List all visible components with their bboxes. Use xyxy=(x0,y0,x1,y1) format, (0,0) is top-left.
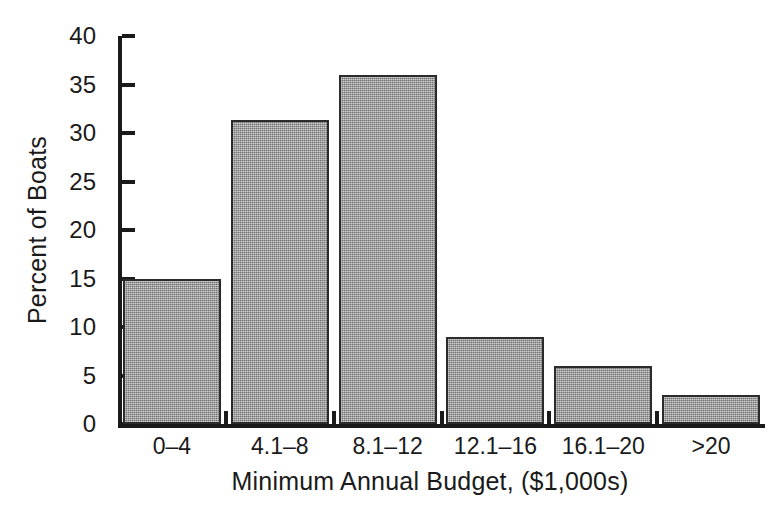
x-tick-label: 12.1–16 xyxy=(442,432,550,460)
x-tick-label: >20 xyxy=(657,432,765,460)
bar xyxy=(446,337,544,424)
y-tick-label: 5 xyxy=(50,364,96,388)
x-axis-ticks xyxy=(118,424,765,425)
bar-chart-figure: Percent of Boats 0510152025303540 0–44.1… xyxy=(0,0,775,513)
y-axis-tick-labels: 0510152025303540 xyxy=(48,0,96,513)
x-tick-label: 8.1–12 xyxy=(334,432,442,460)
y-tick-label: 25 xyxy=(50,170,96,194)
plot-area xyxy=(118,36,765,424)
bar xyxy=(554,366,652,424)
bar xyxy=(123,279,221,425)
y-tick-label: 15 xyxy=(50,267,96,291)
y-tick-label: 40 xyxy=(50,24,96,48)
x-tick-label: 0–4 xyxy=(118,432,226,460)
bar xyxy=(662,395,760,424)
bars-layer xyxy=(118,36,765,424)
y-tick-label: 10 xyxy=(50,315,96,339)
y-tick-label: 30 xyxy=(50,121,96,145)
x-axis-title: Minimum Annual Budget, ($1,000s) xyxy=(100,466,760,496)
x-tick-label: 16.1–20 xyxy=(549,432,657,460)
x-axis-tick-labels: 0–44.1–88.1–1212.1–1616.1–20>20 xyxy=(118,432,765,464)
bar xyxy=(339,75,437,424)
x-tick-label: 4.1–8 xyxy=(226,432,334,460)
y-tick-label: 0 xyxy=(50,412,96,436)
bar xyxy=(231,120,329,424)
y-tick-label: 35 xyxy=(50,73,96,97)
y-tick-label: 20 xyxy=(50,218,96,242)
